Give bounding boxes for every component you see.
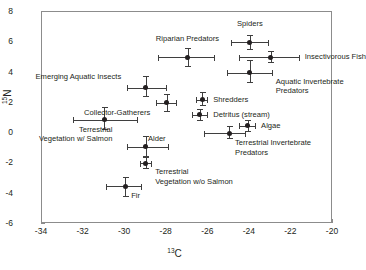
x-error-bar [127,147,169,148]
point-label: Alder [148,134,166,143]
point-marker [200,97,205,102]
point-label: Algae [261,121,280,130]
y-axis-tick-label: 4 [0,68,13,77]
y-axis-tick-mark [41,223,45,224]
y-axis-title-base: N [2,90,13,97]
y-axis-tick-label: 6 [0,37,13,46]
point-marker [245,123,250,128]
point-marker [185,55,190,60]
x-axis-tick-label: -34 [26,227,56,236]
point-label: Fir [131,191,140,200]
x-axis-tick-label: -30 [109,227,139,236]
x-axis-tick-label: -26 [192,227,222,236]
x-axis-tick-label: -28 [151,227,181,236]
y-axis-tick-label: 8 [0,7,13,16]
x-axis-title: 13C [0,248,349,259]
y-axis-tick-label: -2 [0,158,13,167]
point-label: Aquatic Invertebrate Predators [276,77,344,96]
point-label: Spiders [180,19,320,28]
x-error-bar [204,133,246,134]
point-marker [164,100,169,105]
point-marker [143,85,148,90]
point-label: Detritus (stream) [213,110,270,119]
point-label: Collector-Gatherers [84,108,150,117]
point-marker [143,144,148,149]
point-label: Terrestrial Vegetation w/o Salmon [155,167,233,186]
point-label: Terrestrial Invertebrate Predators [235,138,311,157]
point-marker [102,117,107,122]
y-axis-tick-label: -6 [0,219,13,228]
y-axis-tick-label: 2 [0,98,13,107]
x-axis-tick-label: -24 [234,227,264,236]
point-label: Emerging Aquatic Insects [36,72,122,81]
point-label: Insectivorous Fish [305,52,366,61]
x-axis-tick-mark [332,219,333,223]
y-axis-tick-label: 0 [0,128,13,137]
y-axis-tick-label: -4 [0,189,13,198]
x-axis-tick-label: -20 [317,227,347,236]
point-label: Terrestrial Vegetation w/ Salmon [39,125,112,144]
x-axis-title-superscript: 13 [167,247,174,254]
point-marker [123,184,128,189]
point-marker [247,70,252,75]
point-label: Shredders [213,95,248,104]
x-axis-tick-label: -22 [275,227,305,236]
plot-area: SpidersInsectivorous FishRiparian Predat… [41,11,332,223]
point-marker [197,112,202,117]
x-axis-tick-label: -32 [68,227,98,236]
point-marker [227,131,232,136]
point-label: Riparian Predators [118,34,258,43]
point-marker [143,161,148,166]
x-axis-title-base: C [175,248,182,259]
point-marker [268,55,273,60]
